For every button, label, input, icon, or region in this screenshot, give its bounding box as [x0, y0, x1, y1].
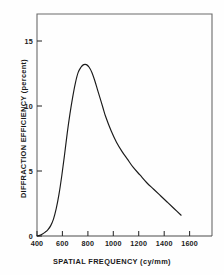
y-axis-title: DIFFRACTION EFFICIENCY (percent) [19, 44, 28, 214]
x-tick-label-800: 800 [82, 239, 95, 248]
x-tick-label-1600: 1600 [181, 239, 198, 248]
plot-canvas [0, 0, 224, 275]
y-tick-label-0: 0 [18, 232, 33, 241]
chart-figure: 400 600 800 1000 1200 1400 1600 0 5 10 1… [0, 0, 224, 275]
x-tick-label-600: 600 [56, 239, 69, 248]
data-series-line [37, 64, 181, 236]
x-tick-label-1000: 1000 [105, 239, 122, 248]
plot-frame [37, 14, 212, 236]
x-tick-marks [37, 231, 190, 236]
y-tick-marks [37, 41, 42, 236]
x-axis-title: SPATIAL FREQUENCY (cy/mm) [0, 257, 224, 266]
x-tick-label-1200: 1200 [130, 239, 147, 248]
x-tick-label-1400: 1400 [156, 239, 173, 248]
